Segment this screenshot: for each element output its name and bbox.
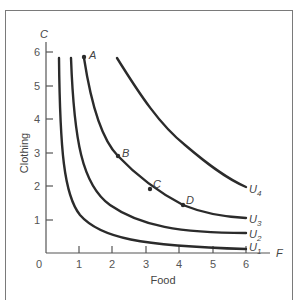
x-tick-label-4: 4 xyxy=(176,258,182,270)
x-tick-label-2: 2 xyxy=(109,258,115,270)
x-tick-label-3: 3 xyxy=(143,258,149,270)
x-tick-label-1: 1 xyxy=(76,258,82,270)
y-tick-label-2: 2 xyxy=(34,180,40,192)
curve-labels: U4 U3 U2 U1 xyxy=(249,183,262,256)
curve-label-u1: U1 xyxy=(249,241,261,256)
point-b-label: B xyxy=(122,147,129,159)
y-tick-labels: 1 2 3 4 5 6 xyxy=(34,46,40,226)
y-axis-symbol: C xyxy=(40,28,48,40)
point-d-marker xyxy=(181,203,185,207)
x-axis-symbol: F xyxy=(276,247,284,259)
point-a-marker xyxy=(82,55,86,59)
point-c-label: C xyxy=(153,178,161,190)
point-d-label: D xyxy=(186,194,194,206)
y-tick-label-5: 5 xyxy=(34,80,40,92)
y-tick-label-3: 3 xyxy=(34,147,40,159)
point-c-marker xyxy=(148,187,152,191)
curve-u3 xyxy=(84,58,246,218)
x-tick-label-6: 6 xyxy=(243,258,249,270)
x-tick-labels: 0 1 2 3 4 5 6 xyxy=(36,258,249,270)
curve-label-u3: U3 xyxy=(249,213,262,228)
indifference-curves xyxy=(59,58,246,249)
curve-u4 xyxy=(117,58,246,187)
x-tick-label-5: 5 xyxy=(210,258,216,270)
curve-u1 xyxy=(59,58,246,249)
point-a-label: A xyxy=(88,49,96,61)
point-b-marker xyxy=(116,154,120,158)
y-axis-title: Clothing xyxy=(18,133,30,173)
y-tick-label-6: 6 xyxy=(34,46,40,58)
origin-label: 0 xyxy=(36,258,42,270)
y-tick-label-1: 1 xyxy=(34,214,40,226)
curve-label-u4: U4 xyxy=(249,183,262,198)
point-labels: A B C D xyxy=(88,49,194,206)
curve-u2 xyxy=(71,58,246,233)
x-axis-title: Food xyxy=(150,274,175,286)
y-tick-label-4: 4 xyxy=(34,113,40,125)
